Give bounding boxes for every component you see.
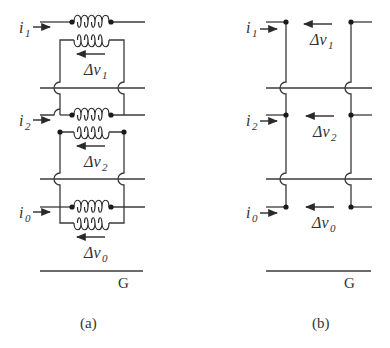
voltage-label-dv1: Δv1	[77, 54, 108, 81]
panel-caption: (b)	[312, 315, 330, 332]
circuit-figure: i1 i2 i0 Δv1 Δv2 Δv0 G (a)	[0, 0, 390, 348]
svg-text:1: 1	[25, 27, 31, 39]
svg-text:i: i	[246, 19, 250, 36]
svg-text:Δv: Δv	[83, 61, 101, 78]
ground-label: G	[344, 275, 355, 291]
svg-text:2: 2	[331, 131, 337, 143]
svg-text:1: 1	[328, 39, 334, 51]
svg-text:2: 2	[102, 161, 108, 173]
voltage-label-dv0: Δv0	[306, 207, 336, 234]
svg-text:i: i	[19, 112, 23, 129]
series-coil-icon	[74, 15, 109, 27]
svg-text:i: i	[246, 204, 250, 221]
svg-text:0: 0	[330, 222, 336, 234]
voltage-label-dv2: Δv2	[77, 146, 108, 173]
svg-text:Δv: Δv	[309, 31, 327, 48]
panel-b: i1 i2 i0 Δv1 Δv2 Δv0 G (b)	[246, 19, 372, 332]
voltage-label-dv0: Δv0	[77, 237, 108, 264]
svg-text:1: 1	[252, 27, 258, 39]
panel-a: i1 i2 i0 Δv1 Δv2 Δv0 G (a)	[19, 15, 145, 332]
phase-1-line	[40, 15, 145, 27]
svg-text:i: i	[246, 112, 250, 129]
svg-text:Δv: Δv	[311, 214, 329, 231]
svg-text:i: i	[19, 204, 23, 221]
phase-0-line	[40, 200, 145, 212]
svg-text:2: 2	[25, 120, 31, 132]
svg-text:0: 0	[25, 212, 31, 224]
svg-text:0: 0	[102, 252, 108, 264]
ground-label: G	[118, 275, 129, 291]
voltage-label-dv1: Δv1	[304, 24, 334, 51]
svg-text:Δv: Δv	[83, 153, 101, 170]
svg-text:2: 2	[252, 120, 258, 132]
svg-text:Δv: Δv	[312, 123, 330, 140]
svg-text:0: 0	[252, 212, 258, 224]
voltage-label-dv2: Δv2	[306, 116, 337, 143]
panel-caption: (a)	[80, 315, 97, 332]
phase-2-line	[40, 108, 145, 120]
svg-text:Δv: Δv	[83, 244, 101, 261]
svg-text:1: 1	[102, 69, 108, 81]
svg-text:i: i	[19, 19, 23, 36]
